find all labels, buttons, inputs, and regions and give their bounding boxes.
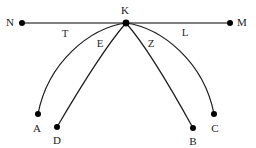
edge-KD <box>57 23 126 127</box>
segment-label-T: T <box>62 28 69 39</box>
vertex-label-A: A <box>33 123 41 134</box>
vertex-label-N: N <box>6 17 14 28</box>
point-N <box>19 20 25 26</box>
vertex-label-K: K <box>121 5 129 16</box>
vertex-label-B: B <box>189 136 196 147</box>
vertex-label-D: D <box>53 135 61 146</box>
geometry-figure: N K M A D B C T E Z L <box>0 0 256 148</box>
segment-label-L: L <box>182 27 189 38</box>
point-C <box>211 111 217 117</box>
segment-label-E: E <box>97 38 104 49</box>
edge-KB <box>126 23 193 128</box>
point-B <box>190 125 196 131</box>
segment-label-Z: Z <box>148 38 155 49</box>
edge-KC <box>126 23 214 114</box>
point-M <box>227 20 233 26</box>
point-K <box>123 20 130 27</box>
vertex-label-C: C <box>211 123 218 134</box>
point-D <box>54 124 60 130</box>
edge-KA <box>38 23 126 114</box>
vertex-label-M: M <box>237 17 247 28</box>
point-A <box>35 111 41 117</box>
